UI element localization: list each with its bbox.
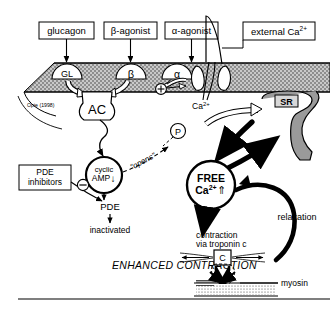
pde-inhibitors-label-2: inhibitors [28,177,62,187]
cyclic-amp-node[interactable]: cyclic AMP ↓ [86,157,122,193]
ligand-label-glucagon: glucagon [47,25,86,36]
opens-pathway: "opens" [123,147,168,172]
contraction-label-2: via troponin c [196,239,247,249]
pde-inhibitors-label-1: PDE [36,167,54,177]
pde-inhibitors-box[interactable]: PDE inhibitors [19,165,71,190]
arrow-sr-release [222,122,252,153]
ligand-label-external-calcium: external Ca2+ [251,25,307,37]
adenylate-cyclase-label: AC [88,102,106,117]
sarcoplasmic-reticulum[interactable]: SR [262,91,319,160]
arrow-sr-uptake [228,143,270,168]
leader-external-calcium [222,40,243,48]
ligand-box-beta-agonist[interactable]: β-agonist [104,22,157,39]
ligand-box-glucagon[interactable]: glucagon [39,22,94,39]
minus-sign-inhibition [77,179,88,190]
cytosol-boundary-inner [18,96,62,129]
inactivated-label: inactivated [90,225,131,235]
opens-label: "opens" [129,150,159,171]
phosphate-node: P [171,124,186,139]
pde-label: PDE [100,201,120,212]
calcium-influx-label: Ca2+ [192,101,210,111]
free-calcium-up-arrow: ⇑ [217,184,226,196]
receptor-label-gl: GL [61,69,73,79]
receptor-label-alpha: α [174,68,180,80]
arrow-to-contraction [204,209,207,227]
phosphate-label: P [175,127,181,137]
ligand-label-beta-agonist: β-agonist [111,25,151,36]
adenylate-cyclase[interactable]: AC [79,92,114,120]
enhanced-contraction-title: ENHANCED CONTRACTION [112,259,257,271]
sarcomere-unit: C myosin [180,250,308,296]
free-calcium-node[interactable]: FREE Ca2+ ⇑ [187,161,235,209]
phosphate-link [163,137,173,146]
ligand-box-external-calcium[interactable]: external Ca2+ [243,22,315,40]
free-calcium-label-1: FREE [197,172,225,184]
cyclic-amp-label-2: AMP [92,173,111,183]
arrow-ac-to-camp [100,120,108,156]
sr-label: SR [280,97,293,107]
troponin-c-label: C [219,253,226,263]
figure-canvas: glucagon β-agonist α-agonist external Ca… [0,0,330,309]
receptor-label-beta: β [128,68,134,80]
myosin-label: myosin [281,278,308,288]
signal-transduction-diagram: glucagon β-agonist α-agonist external Ca… [0,0,330,309]
attribution-text: Opie (1998) [27,102,55,108]
plus-sign-alpha [156,84,167,95]
ligand-box-alpha-agonist[interactable]: α-agonist [165,22,218,39]
relaxation-label: relaxation [277,212,316,222]
cyclic-amp-up-arrow: ↓ [111,173,116,184]
